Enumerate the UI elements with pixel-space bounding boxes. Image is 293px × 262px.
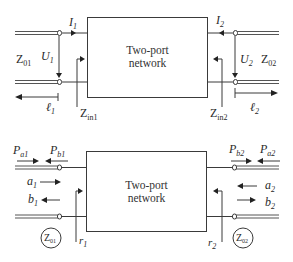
- bottom-r1-label: r1: [79, 234, 87, 249]
- top-zin1-label: Zin1: [80, 106, 98, 122]
- reflection-arrow-icon: [78, 188, 83, 194]
- top-port1-line: [15, 30, 88, 107]
- bottom-z02-label: Z02: [236, 232, 248, 244]
- reflected-power-arrow-icon: [246, 158, 252, 164]
- bottom-pb2-label: Pb2: [228, 142, 244, 158]
- two-port-network-diagram: Two-port network I1 Z0: [0, 0, 293, 262]
- top-box-label-line1: Two-port: [126, 44, 169, 57]
- top-u2-label: U2: [240, 52, 253, 68]
- bottom-z01-label: Z01: [44, 232, 56, 244]
- bottom-b1-label: b1: [28, 192, 38, 208]
- bottom-pb1-label: Pb1: [49, 143, 65, 159]
- reflected-wave-arrow-icon: [41, 197, 47, 203]
- bottom-a2-label: a2: [265, 178, 275, 194]
- top-box-label-line2: network: [129, 57, 167, 69]
- length-arrow-icon: [271, 90, 278, 96]
- incident-power-arrow-icon: [257, 158, 263, 164]
- voltage-arrow-icon: [232, 73, 238, 78]
- current-arrow-icon: [219, 30, 224, 36]
- top-z01-label: Z01: [16, 52, 31, 68]
- top-l2-label: ℓ2: [250, 100, 259, 116]
- incident-wave-arrow-icon: [55, 179, 61, 185]
- top-i1-label: I1: [68, 15, 77, 31]
- bottom-r2-label: r2: [208, 236, 216, 251]
- incident-power-arrow-icon: [33, 158, 39, 164]
- length-arrow-icon: [15, 94, 22, 100]
- input-impedance-arrow-icon: [80, 56, 85, 62]
- top-u1-label: U1: [41, 49, 54, 65]
- incident-wave-arrow-icon: [237, 183, 243, 189]
- bottom-port1-line: [15, 158, 87, 248]
- top-l1-label: ℓ1: [46, 100, 55, 116]
- input-impedance-arrow-icon: [213, 56, 218, 62]
- bottom-pa2-label: Pa2: [259, 142, 275, 158]
- bottom-b2-label: b2: [265, 195, 275, 211]
- top-port2-line: [208, 30, 280, 107]
- top-i2-label: I2: [215, 13, 224, 29]
- bottom-diagram: Two-port network: [12, 142, 280, 251]
- reflected-wave-arrow-icon: [250, 197, 256, 203]
- bottom-box-label-line2: network: [128, 192, 166, 204]
- reflected-power-arrow-icon: [45, 158, 51, 164]
- voltage-arrow-icon: [56, 73, 62, 78]
- top-zin2-label: Zin2: [210, 106, 228, 122]
- bottom-pa1-label: Pa1: [12, 143, 28, 159]
- top-z02-label: Z02: [261, 52, 276, 68]
- top-diagram: Two-port network I1 Z0: [15, 13, 279, 122]
- reflection-arrow-icon: [213, 188, 218, 194]
- bottom-a1-label: a1: [27, 174, 37, 190]
- bottom-box-label-line1: Two-port: [125, 179, 168, 192]
